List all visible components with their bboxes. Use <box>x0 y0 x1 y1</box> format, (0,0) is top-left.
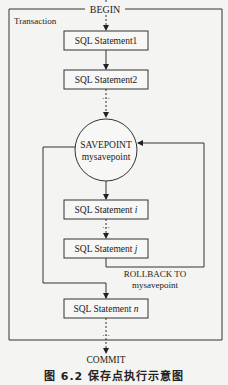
ellipsis-1: … <box>102 92 110 101</box>
rollback-target: mysavepoint <box>132 280 178 290</box>
transaction-label: Transaction <box>14 16 57 26</box>
savepoint-circle <box>75 119 137 181</box>
ellipsis-3: … <box>102 329 110 338</box>
sql-statement-i-label: SQL Statement i <box>75 205 138 215</box>
savepoint-name: mysavepoint <box>82 152 131 162</box>
savepoint-flow-diagram: BEGIN Transaction SQL Statement1 SQL Sta… <box>0 0 228 385</box>
rollback-label: ROLLBACK TO <box>124 269 187 279</box>
begin-label: BEGIN <box>90 4 121 15</box>
commit-label: COMMIT <box>86 355 125 365</box>
sql-statement-n-label: SQL Statement n <box>73 304 138 314</box>
sql-statement-j-label: SQL Statement j <box>75 244 138 254</box>
sql-statement-2-label: SQL Statement2 <box>75 75 138 85</box>
sql-statement-1-label: SQL Statement1 <box>75 36 138 46</box>
savepoint-label: SAVEPOINT <box>80 140 132 150</box>
figure-caption: 图 6.2 保存点执行示意图 <box>0 367 228 383</box>
ellipsis-2: … <box>102 221 110 230</box>
